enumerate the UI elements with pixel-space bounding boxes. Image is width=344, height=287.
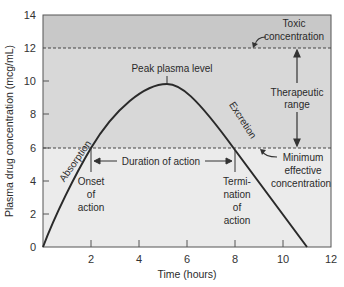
svg-text:2: 2 — [30, 208, 36, 220]
svg-text:of: of — [233, 202, 242, 213]
svg-text:of: of — [87, 189, 96, 200]
svg-text:12: 12 — [24, 42, 36, 54]
duration-label: Duration of action — [122, 156, 200, 167]
svg-text:10: 10 — [24, 75, 36, 87]
svg-text:4: 4 — [136, 253, 142, 265]
svg-text:nation: nation — [223, 189, 250, 200]
svg-text:10: 10 — [277, 253, 289, 265]
svg-text:0: 0 — [30, 241, 36, 253]
svg-text:2: 2 — [88, 253, 94, 265]
svg-text:8: 8 — [30, 108, 36, 120]
svg-text:12: 12 — [325, 253, 337, 265]
svg-text:range: range — [284, 99, 310, 110]
svg-text:action: action — [78, 202, 105, 213]
y-tick-labels: 0 2 4 6 8 10 12 14 — [24, 9, 36, 253]
svg-text:Termi-: Termi- — [223, 176, 251, 187]
svg-text:Minimum: Minimum — [283, 152, 324, 163]
chart-svg: 0 2 4 6 8 10 12 14 2 4 6 8 10 12 Time (h… — [0, 0, 344, 287]
svg-text:Toxic: Toxic — [283, 18, 306, 29]
peak-label: Peak plasma level — [131, 63, 212, 74]
x-tick-labels: 2 4 6 8 10 12 — [88, 253, 337, 265]
svg-text:8: 8 — [232, 253, 238, 265]
svg-text:6: 6 — [184, 253, 190, 265]
svg-text:Onset: Onset — [78, 176, 105, 187]
svg-text:action: action — [224, 215, 251, 226]
svg-text:6: 6 — [30, 142, 36, 154]
svg-text:concentration: concentration — [264, 31, 324, 42]
svg-text:Therapeutic: Therapeutic — [271, 87, 324, 98]
svg-text:4: 4 — [30, 175, 36, 187]
svg-text:concentration: concentration — [271, 178, 331, 189]
svg-text:14: 14 — [24, 9, 36, 21]
x-axis-title: Time (hours) — [157, 268, 216, 280]
y-axis-title: Plasma drug concentration (mcg/mL) — [3, 45, 15, 217]
svg-text:effective: effective — [284, 165, 321, 176]
